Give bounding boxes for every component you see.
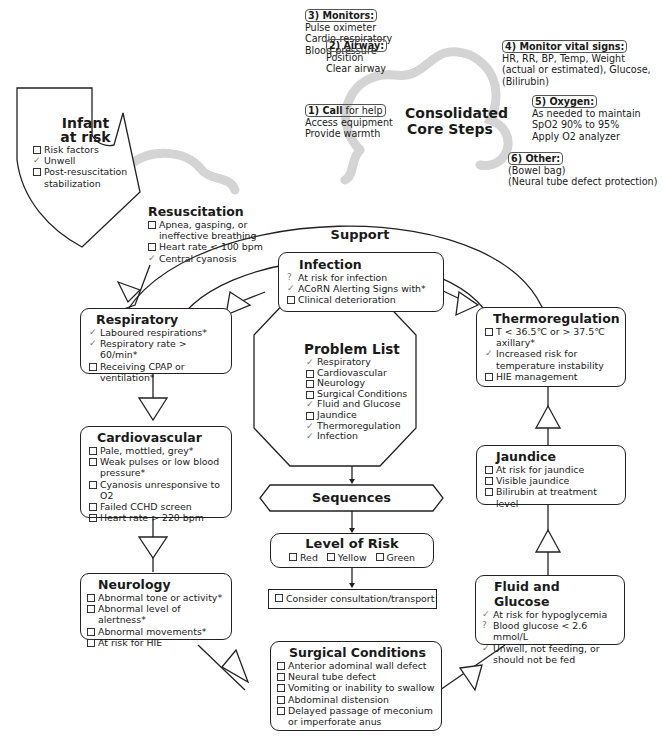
item-text: At risk for jaundice <box>496 464 584 475</box>
check-icon: ✓ <box>306 421 316 432</box>
list-item[interactable]: Heart rate > 220 bpm <box>89 512 225 523</box>
infant-at-risk-title-line: at risk <box>43 130 128 144</box>
risk-option-yellow[interactable]: Yellow <box>327 552 367 563</box>
item-text: Respiratory <box>317 356 371 367</box>
checkbox-icon <box>89 479 99 492</box>
cardiovascular-box: Cardiovascular Pale, mottled, grey* Weak… <box>80 426 232 518</box>
item-text: Delayed passage of meconium or imperfora… <box>288 705 433 727</box>
infant-at-risk: Infant at risk Risk factors ✓Unwell Post… <box>33 116 128 189</box>
item-text: Vomiting or inability to swallow <box>288 682 434 693</box>
list-item[interactable]: T < 36.5℃ or > 37.5℃ axillary* <box>485 326 619 348</box>
item-text: Heart rate < 100 bpm <box>159 241 263 252</box>
list-item[interactable]: Abdominal distension <box>277 694 435 705</box>
list-item[interactable]: ?At risk for infection <box>287 272 437 283</box>
risk-option-label: Red <box>300 552 318 563</box>
item-text: Increased risk for temperature instabili… <box>496 348 604 370</box>
item-text: Infection <box>317 430 358 441</box>
item-text: Bilirubin at treatment level <box>496 486 597 508</box>
risk-option-red[interactable]: Red <box>289 552 318 563</box>
list-item[interactable]: Abnormal tone or activity* <box>87 592 225 603</box>
respiratory-title: Respiratory <box>89 312 225 327</box>
question-icon: ? <box>482 620 492 631</box>
core-step-2-line: Clear airway <box>326 63 387 74</box>
check-icon: ✓ <box>482 609 492 620</box>
list-item[interactable]: At risk for jaundice <box>485 464 619 475</box>
list-item[interactable]: Delayed passage of meconium or imperfora… <box>277 705 435 727</box>
check-icon: ✓ <box>287 283 297 294</box>
checkbox-icon <box>87 637 97 650</box>
neurology-items: Abnormal tone or activity* Abnormal leve… <box>87 592 225 648</box>
list-item[interactable]: Receiving CPAP or ventilation* <box>89 361 225 383</box>
item-text: Abnormal movements* <box>98 626 206 637</box>
list-item[interactable]: Pale, mottled, grey* <box>89 445 225 456</box>
list-item[interactable]: Bilirubin at treatment level <box>485 486 619 508</box>
core-step-4-line: (actual or estimated), Glucose, <box>502 64 651 75</box>
fluid-glucose-box: Fluid and Glucose ✓At risk for hypoglyce… <box>475 575 625 645</box>
list-item[interactable]: ✓Unwell, not feeding, or should not be f… <box>482 643 618 665</box>
checkbox-icon <box>275 590 283 608</box>
list-item[interactable]: ✓Increased risk for temperature instabil… <box>485 348 619 370</box>
check-icon: ✓ <box>148 253 158 264</box>
resuscitation: Resuscitation Apnea, gasping, or ineffec… <box>148 204 278 264</box>
item-text: Weak pulses or low blood pressure* <box>100 456 219 478</box>
checkbox-icon <box>277 705 287 718</box>
item-text: Cardiovascular <box>317 367 387 378</box>
check-icon: ✓ <box>306 399 316 410</box>
list-item[interactable]: ✓Unwell <box>33 155 128 166</box>
list-item[interactable]: Heart rate < 100 bpm <box>148 241 278 252</box>
consider-consultation[interactable]: Consider consultation/transport <box>268 589 437 609</box>
core-step-1: 1) Call for help Access equipment Provid… <box>305 104 393 140</box>
list-item[interactable]: Cyanosis unresponsive to O2 <box>89 479 225 501</box>
level-of-risk-box: Level of Risk Red Yellow Green <box>270 533 434 568</box>
core-step-3-line: Pulse oximeter <box>305 22 392 33</box>
core-step-2-label: 2) Airway: <box>326 39 387 52</box>
list-item[interactable]: ✓At risk for hypoglycemia <box>482 609 618 620</box>
list-item[interactable]: Clinical deterioration <box>287 294 437 305</box>
core-step-6-line: (Neural tube defect protection) <box>508 176 657 187</box>
list-item[interactable]: Apnea, gasping, or ineffective breathing <box>148 219 278 241</box>
problem-list-title: Problem List <box>304 342 416 357</box>
surgical-title: Surgical Conditions <box>277 645 435 660</box>
list-item[interactable]: ✓Central cyanosis <box>148 253 278 264</box>
list-item[interactable]: Neural tube defect <box>277 671 435 682</box>
jaundice-items: At risk for jaundice Visible jaundice Bi… <box>485 464 619 509</box>
thermoregulation-box: Thermoregulation T < 36.5℃ or > 37.5℃ ax… <box>476 307 626 387</box>
risk-option-green[interactable]: Green <box>376 552 415 563</box>
list-item[interactable]: Visible jaundice <box>485 475 619 486</box>
checkbox-icon <box>485 326 495 339</box>
cardiovascular-items: Pale, mottled, grey* Weak pulses or low … <box>89 445 225 523</box>
checkbox-icon <box>289 551 297 564</box>
core-step-6-line: (Bowel bag) <box>508 165 657 176</box>
list-item[interactable]: ✓Laboured respirations* <box>89 327 225 338</box>
list-item[interactable]: Anterior adominal wall defect <box>277 660 435 671</box>
thermoregulation-items: T < 36.5℃ or > 37.5℃ axillary* ✓Increase… <box>485 326 619 382</box>
item-text: Unwell, not feeding, or should not be fe… <box>493 643 600 665</box>
checkbox-icon <box>485 371 495 384</box>
core-step-1-label: 1) Call for help <box>305 104 386 117</box>
resuscitation-title: Resuscitation <box>148 204 278 219</box>
list-item[interactable]: ?Blood glucose < 2.6 mmol/L <box>482 620 618 642</box>
item-text: Laboured respirations* <box>100 327 207 338</box>
list-item[interactable]: ✓Infection <box>306 431 416 442</box>
list-item[interactable]: Abnormal movements* <box>87 626 225 637</box>
list-item[interactable]: ✓ACoRN Alerting Signs with* <box>287 283 437 294</box>
list-item[interactable]: ✓Respiratory rate > 60/min* <box>89 338 225 360</box>
checkbox-icon <box>287 294 297 307</box>
infant-at-risk-title-line: Infant <box>43 116 128 130</box>
cardiovascular-title: Cardiovascular <box>89 430 225 445</box>
list-item[interactable]: HIE management <box>485 371 619 382</box>
list-item[interactable]: Vomiting or inability to swallow <box>277 682 435 693</box>
list-item[interactable]: Failed CCHD screen <box>89 501 225 512</box>
resuscitation-items: Apnea, gasping, or ineffective breathing… <box>148 219 278 264</box>
item-text: Abnormal level of alertness* <box>98 603 181 625</box>
core-step-4: 4) Monitor vital signs: HR, RR, BP, Temp… <box>502 40 651 87</box>
list-item[interactable]: Post-resuscitation stabilization <box>33 166 128 188</box>
list-item[interactable]: Abnormal level of alertness* <box>87 603 225 625</box>
item-text: Surgical Conditions <box>317 388 407 399</box>
list-item[interactable]: Weak pulses or low blood pressure* <box>89 456 225 478</box>
list-item[interactable]: At risk for HIE <box>87 637 225 648</box>
item-text: Visible jaundice <box>496 475 569 486</box>
item-text: Respiratory rate > 60/min* <box>100 338 187 360</box>
support-label: Support <box>320 227 400 243</box>
list-item[interactable]: Risk factors <box>33 144 128 155</box>
